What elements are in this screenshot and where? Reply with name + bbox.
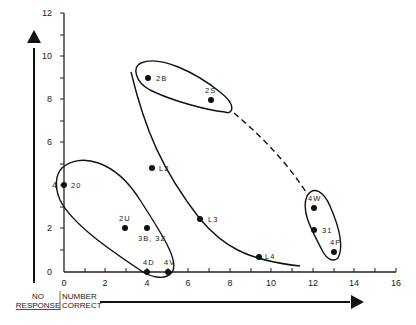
point-2U xyxy=(122,225,128,231)
svg-text:4: 4 xyxy=(144,278,149,288)
y-axis-caption: NO RESPONSE xyxy=(16,292,60,310)
svg-text:NUMBER: NUMBER xyxy=(62,292,97,301)
point-2S xyxy=(208,97,214,103)
svg-text:12: 12 xyxy=(42,8,52,18)
svg-text:RESPONSE: RESPONSE xyxy=(16,301,60,310)
point-3B-3Z xyxy=(144,225,150,231)
svg-text:4V: 4V xyxy=(164,258,175,267)
svg-text:4D: 4D xyxy=(143,258,155,267)
x-axis-caption: NUMBER CORRECT xyxy=(62,292,102,310)
point-L4 xyxy=(256,254,262,260)
x-direction-arrow xyxy=(100,295,364,309)
point-4P xyxy=(331,249,337,255)
point-4D xyxy=(144,269,150,275)
svg-text:14: 14 xyxy=(349,278,359,288)
svg-text:10: 10 xyxy=(42,51,52,61)
point-4W xyxy=(311,205,317,211)
svg-text:31: 31 xyxy=(322,226,332,235)
svg-text:L3: L3 xyxy=(208,215,218,224)
point-L3 xyxy=(197,216,203,222)
svg-text:8: 8 xyxy=(47,94,52,104)
y-direction-arrow xyxy=(27,30,41,283)
y-tick-labels: 12 10 8 6 4 2 0 xyxy=(42,8,57,277)
svg-text:6: 6 xyxy=(185,278,190,288)
point-31 xyxy=(311,227,317,233)
svg-text:0: 0 xyxy=(47,267,52,277)
svg-text:L2: L2 xyxy=(159,164,169,173)
svg-text:NO: NO xyxy=(32,292,44,301)
x-tick-labels: 0 2 4 6 8 10 12 14 16 xyxy=(61,278,401,288)
svg-text:4P: 4P xyxy=(330,238,341,247)
svg-text:10: 10 xyxy=(266,278,276,288)
point-2B xyxy=(145,75,151,81)
svg-text:20: 20 xyxy=(71,181,81,190)
cluster-upper xyxy=(136,61,232,113)
point-L2 xyxy=(149,165,155,171)
svg-text:2S: 2S xyxy=(205,86,216,95)
svg-text:6: 6 xyxy=(47,137,52,147)
svg-text:L4: L4 xyxy=(265,252,275,261)
point-20 xyxy=(61,182,67,188)
svg-text:12: 12 xyxy=(308,278,318,288)
scatter-chart: 12 10 8 6 4 2 0 0 2 4 6 8 10 12 14 16 xyxy=(0,0,416,325)
svg-text:2B: 2B xyxy=(156,74,167,83)
svg-text:16: 16 xyxy=(391,278,401,288)
svg-text:2: 2 xyxy=(47,223,52,233)
cluster-lower-left xyxy=(56,160,174,277)
dashed-connector xyxy=(234,113,306,192)
svg-text:0: 0 xyxy=(61,278,66,288)
svg-text:3B, 3Z: 3B, 3Z xyxy=(138,234,166,243)
svg-text:4W: 4W xyxy=(308,194,321,203)
svg-text:CORRECT: CORRECT xyxy=(62,301,102,310)
point-4V xyxy=(165,269,171,275)
svg-text:2U: 2U xyxy=(119,214,131,223)
svg-text:2: 2 xyxy=(102,278,107,288)
svg-text:8: 8 xyxy=(227,278,232,288)
